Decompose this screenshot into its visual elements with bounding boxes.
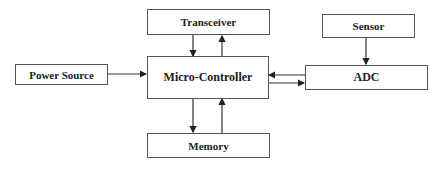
transceiver-block: Transceiver	[147, 9, 270, 35]
adc-block: ADC	[305, 65, 428, 90]
sensor-block: Sensor	[322, 14, 415, 38]
transceiver-label: Transceiver	[181, 16, 236, 28]
adc-label: ADC	[354, 70, 380, 85]
power-source-block: Power Source	[15, 64, 108, 85]
power-source-label: Power Source	[29, 69, 94, 81]
sensor-label: Sensor	[353, 20, 385, 32]
micro-controller-block: Micro-Controller	[147, 56, 269, 99]
memory-block: Memory	[147, 133, 270, 158]
micro-controller-label: Micro-Controller	[164, 70, 253, 85]
memory-label: Memory	[188, 140, 228, 152]
